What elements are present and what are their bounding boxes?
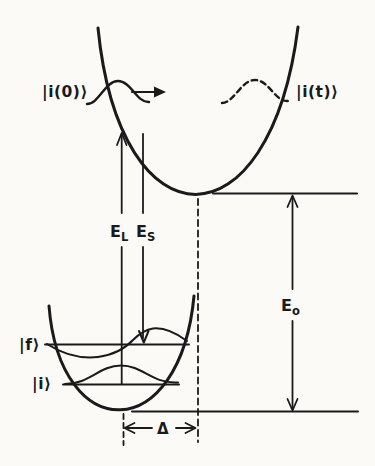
label-scattered-energy: ES	[136, 222, 155, 244]
label-evolved-wavepacket: |i(t)⟩	[296, 83, 339, 102]
upper-potential-curve	[98, 27, 298, 194]
label-final-state: |f⟩	[19, 336, 40, 355]
figure-canvas: |i(0)⟩ |i(t)⟩ EL ES Eo |f⟩ |i⟩ Δ	[0, 0, 375, 466]
label-displacement: Δ	[157, 420, 169, 438]
f-wavefunction-curve	[47, 328, 187, 357]
label-zero-zero-energy: Eo	[281, 296, 300, 318]
label-laser-energy: EL	[110, 222, 129, 244]
momentum-arrow-icon	[154, 87, 166, 98]
label-initial-wavepacket: |i(0)⟩	[42, 83, 88, 102]
evolved-wavepacket-curve	[222, 80, 288, 103]
label-initial-state: |i⟩	[32, 375, 52, 394]
potential-energy-diagram: |i(0)⟩ |i(t)⟩ EL ES Eo |f⟩ |i⟩ Δ	[0, 0, 375, 466]
